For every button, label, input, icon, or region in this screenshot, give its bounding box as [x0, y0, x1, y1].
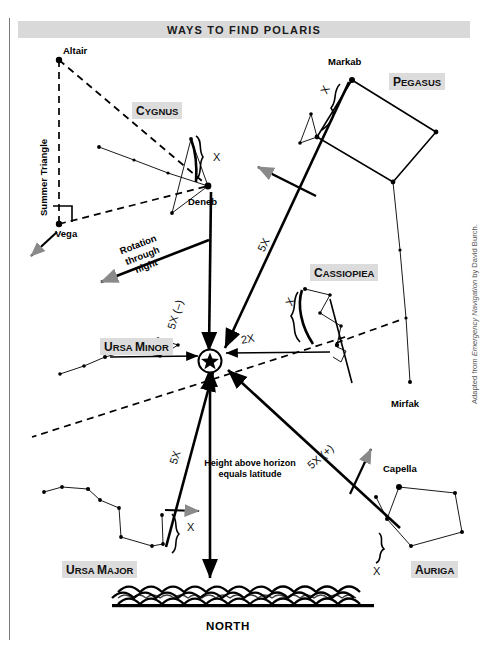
auriga-x-brace	[376, 533, 384, 563]
cassiopiea-to-polaris-arrow	[226, 352, 330, 353]
star-label-markab: Markab	[328, 56, 361, 67]
frame-rule	[9, 18, 10, 640]
star-label-deneb: Deneb	[188, 196, 217, 207]
measure-x-auriga: X	[373, 565, 380, 577]
cygnus-x-brace	[196, 136, 203, 180]
measure-x-ursa-major: X	[187, 521, 194, 533]
ursa-major-direction-arrow	[165, 510, 199, 511]
north-label: NORTH	[206, 620, 250, 632]
polaris-axis-dashed	[32, 337, 345, 437]
constellation-label-cygnus: CYGNUS	[132, 102, 182, 119]
pegasus-star-dots	[298, 77, 438, 384]
constellation-label-auriga: AURIGA	[411, 561, 458, 578]
pegasus-direction-arrow	[258, 167, 316, 196]
page-title: WAYS TO FIND POLARIS	[18, 22, 470, 38]
ursa-minor-to-polaris-arrow	[110, 356, 198, 357]
markab-to-polaris-arrow	[225, 82, 349, 348]
cygnus-span	[191, 139, 196, 182]
rotation-through-night-label: Rotation through night	[118, 232, 166, 278]
ursa-major-x-brace	[172, 514, 179, 553]
cassiopiea-dashed	[336, 320, 400, 343]
star-altair-dot	[56, 57, 62, 63]
ursa-major-star-dots	[42, 485, 165, 548]
auriga-lines	[376, 487, 462, 546]
height-above-horizon-note: Height above horizon equals latitude	[184, 458, 316, 480]
polaris-marker-circle	[199, 350, 222, 373]
auriga-to-polaris-arrow	[228, 370, 400, 528]
constellation-label-ursa-major: URSA MAJOR	[62, 561, 137, 578]
constellation-label-ursa-minor: URSA MINOR	[100, 338, 173, 355]
cassiopiea-lines	[305, 289, 341, 345]
measure-5x-ursa-major: 5X	[167, 449, 183, 466]
credit-line: Adapted from Emergency Navigation by Dav…	[470, 224, 479, 404]
horizon-waves	[112, 587, 374, 608]
auriga-direction-arrow	[350, 449, 371, 494]
cygnus-star-dots	[97, 137, 193, 215]
pegasus-lines	[300, 80, 436, 382]
constellation-label-pegasus: PEGASUS	[389, 73, 445, 90]
star-deneb-dot	[205, 183, 212, 190]
measure-5x-pegasus: 5X	[255, 236, 272, 253]
measure-2x: 2X	[240, 332, 255, 346]
summer-triangle-lines	[59, 60, 208, 224]
measure-x-cygnus: X	[213, 151, 220, 163]
summer-triangle-label: Summer Triangle	[38, 139, 49, 216]
measure-x-pegasus: X	[318, 84, 332, 96]
cassiopiea-span	[300, 290, 313, 344]
star-label-mirfak: Mirfak	[391, 398, 419, 409]
cassiopiea-star-dots	[303, 287, 343, 347]
star-label-capella: Capella	[383, 463, 417, 474]
ursa-major-lines	[44, 487, 163, 546]
star-vega-dot	[56, 221, 62, 227]
cassiopiea-axis	[330, 299, 352, 383]
auriga-star-dots	[374, 484, 464, 548]
star-label-vega: Vega	[55, 228, 77, 239]
polaris-star-glyph	[201, 353, 219, 370]
star-label-altair: Altair	[63, 45, 87, 56]
measure-5x-minus: 5X (–)	[165, 298, 185, 330]
measure-x-cassiopiea: X	[283, 296, 297, 308]
right-angle-mark	[53, 206, 72, 222]
diagram-page: WAYS TO FIND POLARIS	[0, 0, 487, 649]
constellation-label-cassiopiea: CASSIOPIEA	[310, 264, 378, 281]
cassiopiea-right-angle	[333, 347, 346, 362]
deneb-to-polaris-arrow	[209, 192, 211, 351]
vega-direction-arrow	[31, 232, 57, 256]
star-chart-artwork	[0, 0, 487, 649]
